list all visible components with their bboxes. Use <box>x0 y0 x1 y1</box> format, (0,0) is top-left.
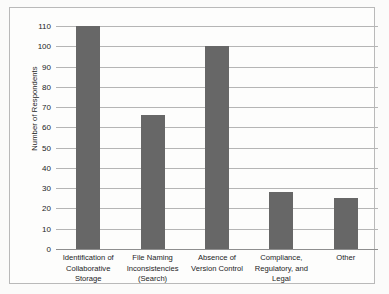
y-tick-label-50: 50 <box>42 143 51 152</box>
x-axis-label-line: (Search) <box>120 274 184 285</box>
y-tick-label-40: 40 <box>42 163 51 172</box>
x-axis-label-line: Other <box>314 253 378 264</box>
y-tick-label-80: 80 <box>42 82 51 91</box>
x-axis-label-line: Compliance, <box>249 253 313 264</box>
x-axis-label-line: Identification of <box>56 253 120 264</box>
bar <box>76 26 100 249</box>
x-axis-label-line: Regulatory, and <box>249 264 313 275</box>
y-axis-title: Number of Respondents <box>30 39 39 179</box>
bar <box>269 192 293 249</box>
x-axis-label-line: Storage <box>56 274 120 285</box>
figure-border: Number of Respondents 010203040506070809… <box>9 7 375 284</box>
x-axis-label: Other <box>314 253 378 264</box>
x-axis-label: File NamingInconsistencies(Search) <box>120 253 184 285</box>
x-axis-label-line: Inconsistencies <box>120 264 184 275</box>
y-tick-label-10: 10 <box>42 224 51 233</box>
y-tick-label-30: 30 <box>42 184 51 193</box>
x-axis-label: Absence ofVersion Control <box>185 253 249 274</box>
figure-root: Number of Respondents 010203040506070809… <box>0 0 389 294</box>
bar <box>141 115 165 249</box>
x-axis-label-line: Absence of <box>185 253 249 264</box>
x-axis-label: Compliance,Regulatory, andLegal <box>249 253 313 285</box>
x-axis-category-labels: Identification ofCollaborativeStorageFil… <box>56 253 378 294</box>
x-axis-label-line: Legal <box>249 274 313 285</box>
bar <box>334 198 358 249</box>
y-tick-label-70: 70 <box>42 103 51 112</box>
x-axis-label-line: File Naming <box>120 253 184 264</box>
y-tick-label-90: 90 <box>42 62 51 71</box>
y-tick-label-100: 100 <box>38 42 51 51</box>
x-axis-label-line: Collaborative <box>56 264 120 275</box>
gridline-0: 0 <box>56 249 378 250</box>
y-tick-label-20: 20 <box>42 204 51 213</box>
plot-area: 0102030405060708090100110 <box>56 26 378 249</box>
y-tick-label-0: 0 <box>47 245 51 254</box>
y-tick-label-110: 110 <box>38 22 51 31</box>
y-tick-label-60: 60 <box>42 123 51 132</box>
bar <box>205 46 229 249</box>
x-axis-label-line: Version Control <box>185 264 249 275</box>
x-axis-label: Identification ofCollaborativeStorage <box>56 253 120 285</box>
bars-layer <box>56 26 378 249</box>
